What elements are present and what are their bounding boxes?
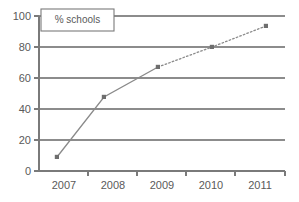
chart-canvas: 100 80 60 40 20 0 2007 2008 2009 2010 20… bbox=[0, 0, 299, 202]
y-axis-label-20: 20 bbox=[19, 134, 31, 146]
x-axis-labels: 2007 2008 2009 2010 2011 bbox=[52, 179, 272, 191]
data-point-2009 bbox=[156, 65, 160, 69]
data-point-2008 bbox=[102, 95, 106, 99]
x-axis-label-2010: 2010 bbox=[199, 179, 223, 191]
y-axis-labels: 100 80 60 40 20 0 bbox=[13, 10, 31, 177]
y-axis-label-40: 40 bbox=[19, 103, 31, 115]
y-axis-label-60: 60 bbox=[19, 72, 31, 84]
data-point-2007 bbox=[55, 155, 59, 159]
data-point-2011 bbox=[264, 24, 268, 28]
axes bbox=[39, 16, 285, 171]
data-point-2010 bbox=[210, 45, 214, 49]
y-axis-label-0: 0 bbox=[25, 165, 31, 177]
y-axis-label-80: 80 bbox=[19, 41, 31, 53]
legend-label-percent-schools: % schools bbox=[55, 14, 101, 25]
series-line-actual bbox=[57, 67, 158, 157]
y-axis-label-100: 100 bbox=[13, 10, 31, 22]
x-axis-label-2008: 2008 bbox=[101, 179, 125, 191]
x-axis-label-2009: 2009 bbox=[150, 179, 174, 191]
x-axis-label-2011: 2011 bbox=[248, 179, 272, 191]
line-chart: 100 80 60 40 20 0 2007 2008 2009 2010 20… bbox=[0, 0, 299, 202]
legend: % schools bbox=[41, 9, 114, 31]
series-percent-schools bbox=[55, 24, 268, 159]
gridlines bbox=[39, 16, 285, 140]
y-tick-marks bbox=[34, 16, 39, 171]
x-tick-marks bbox=[88, 171, 285, 176]
x-axis-label-2007: 2007 bbox=[52, 179, 76, 191]
